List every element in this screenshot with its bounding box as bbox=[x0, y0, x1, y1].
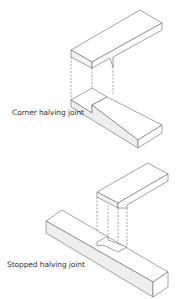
stopped-halving-joint-drawing bbox=[46, 163, 168, 297]
corner-halving-joint-drawing bbox=[71, 10, 162, 148]
joints-illustration bbox=[0, 0, 184, 299]
corner-halving-joint-label: Corner halving joint bbox=[12, 108, 84, 117]
stopped-halving-joint-label: Stopped halving joint bbox=[7, 260, 85, 269]
